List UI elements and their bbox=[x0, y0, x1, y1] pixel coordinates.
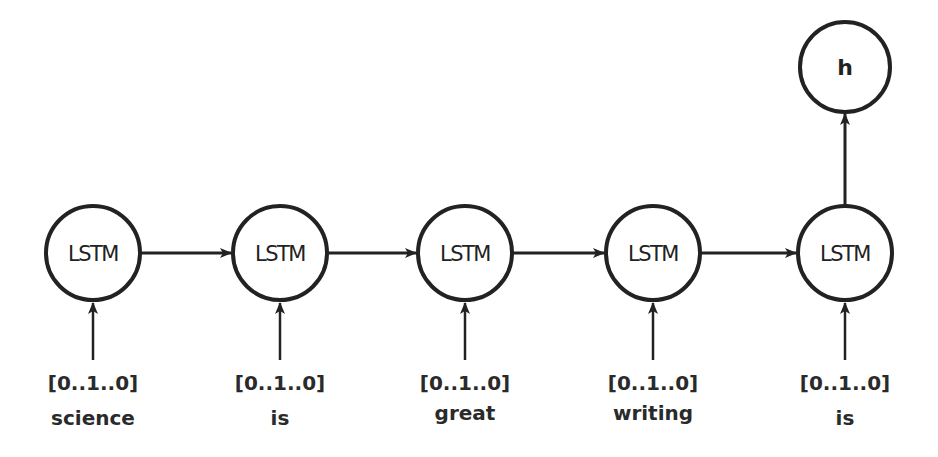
lstm-node-label: LSTM bbox=[440, 242, 490, 266]
lstm-node-label: LSTM bbox=[255, 242, 305, 266]
lstm-node-label: LSTM bbox=[68, 242, 118, 266]
lstm-node-5: LSTM bbox=[798, 206, 892, 300]
input-vector-2: [0..1..0] bbox=[235, 371, 325, 395]
input-word-2: is bbox=[271, 406, 290, 430]
input-vectors: [0..1..0] [0..1..0] [0..1..0] [0..1..0] … bbox=[48, 371, 890, 395]
lstm-node-label: LSTM bbox=[628, 242, 678, 266]
lstm-node-1: LSTM bbox=[46, 206, 140, 300]
input-word-5: is bbox=[836, 406, 855, 430]
lstm-node-4: LSTM bbox=[606, 206, 700, 300]
lstm-node-3: LSTM bbox=[418, 206, 512, 300]
input-vector-5: [0..1..0] bbox=[800, 371, 890, 395]
output-node-h: h bbox=[800, 22, 890, 112]
input-word-4: writing bbox=[613, 401, 693, 425]
lstm-node-2: LSTM bbox=[233, 206, 327, 300]
input-vector-1: [0..1..0] bbox=[48, 371, 138, 395]
input-word-1: science bbox=[51, 406, 135, 430]
input-words: science is great writing is bbox=[51, 401, 854, 430]
input-vector-4: [0..1..0] bbox=[608, 371, 698, 395]
input-vector-3: [0..1..0] bbox=[420, 371, 510, 395]
lstm-node-label: LSTM bbox=[820, 242, 870, 266]
lstm-diagram: h LSTM LSTM LSTM LSTM LSTM [0..1..0] [0.… bbox=[0, 0, 938, 457]
input-word-3: great bbox=[435, 401, 496, 425]
output-node-label: h bbox=[837, 55, 853, 80]
input-arrows bbox=[93, 303, 845, 360]
